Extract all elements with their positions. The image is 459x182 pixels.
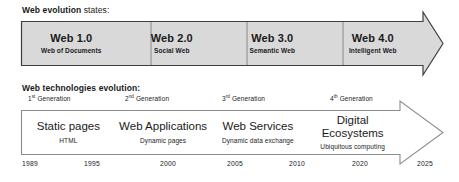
web-state-subtitle: Intelligent Web (349, 47, 397, 55)
evolution-section-heading: Web evolution states: (22, 5, 109, 15)
generation-word: Generation (230, 95, 265, 102)
year-label: 1989 (22, 160, 38, 167)
web-state-cell-1: Web 1.0 Web of Documents (21, 21, 122, 66)
web-state-cell-3: Web 3.0 Semantic Web (222, 21, 323, 66)
generation-label-1: 1st Generation (28, 95, 71, 102)
web-evolution-states-row: Web 1.0 Web of Documents Web 2.0 Social … (21, 21, 423, 66)
generation-label-4: 4th Generation (330, 95, 373, 102)
technology-cell-4: Digital Ecosystems Ubiquitous computing (305, 110, 400, 155)
timeline-year-axis: 1989 1995 2000 2005 2010 2020 2025 (0, 160, 459, 174)
web-state-title: Web 1.0 (50, 32, 92, 45)
technology-title: Web Services (223, 120, 294, 133)
evolution-heading-rest: states: (81, 5, 109, 15)
generation-word: Generation (134, 95, 169, 102)
technology-title: Digital Ecosystems (305, 114, 400, 140)
year-label: 2005 (227, 160, 243, 167)
web-technologies-row: Static pages HTML Web Applications Dynam… (21, 110, 400, 155)
diagram-canvas: Web evolution states: Web 1.0 Web of Doc… (0, 0, 459, 182)
technology-subtitle: HTML (59, 137, 77, 145)
web-state-subtitle: Semantic Web (249, 47, 295, 55)
technology-cell-3: Web Services Dynamic data exchange (211, 110, 306, 155)
generation-label-2: 2nd Generation (125, 95, 169, 102)
web-state-cell-4: Web 4.0 Intelligent Web (323, 21, 424, 66)
year-label: 1995 (84, 160, 100, 167)
web-state-subtitle: Social Web (154, 47, 190, 55)
technology-cell-1: Static pages HTML (21, 110, 116, 155)
year-label: 2000 (160, 160, 176, 167)
web-state-title: Web 3.0 (251, 32, 293, 45)
web-state-subtitle: Web of Documents (41, 47, 101, 55)
year-label: 2020 (352, 160, 368, 167)
web-state-cell-2: Web 2.0 Social Web (122, 21, 223, 66)
year-label: 2025 (417, 160, 433, 167)
generation-word: Generation (338, 95, 373, 102)
evolution-heading-bold: Web evolution (22, 5, 81, 15)
web-state-title: Web 4.0 (352, 32, 394, 45)
technology-subtitle: Ubiquitous computing (320, 143, 385, 151)
technology-subtitle: Dynamic pages (140, 137, 186, 145)
year-label: 2010 (289, 160, 305, 167)
technologies-heading-text: Web technologies evolution: (22, 83, 140, 93)
technology-title: Static pages (37, 120, 100, 133)
generation-labels-row: 1st Generation 2nd Generation 3rd Genera… (21, 95, 423, 107)
generation-word: Generation (36, 95, 71, 102)
technology-title: Web Applications (119, 120, 207, 133)
technologies-section-heading: Web technologies evolution: (22, 83, 140, 93)
generation-label-3: 3rd Generation (222, 95, 265, 102)
technology-subtitle: Dynamic data exchange (222, 137, 294, 145)
web-state-title: Web 2.0 (151, 32, 193, 45)
technology-cell-2: Web Applications Dynamic pages (116, 110, 211, 155)
